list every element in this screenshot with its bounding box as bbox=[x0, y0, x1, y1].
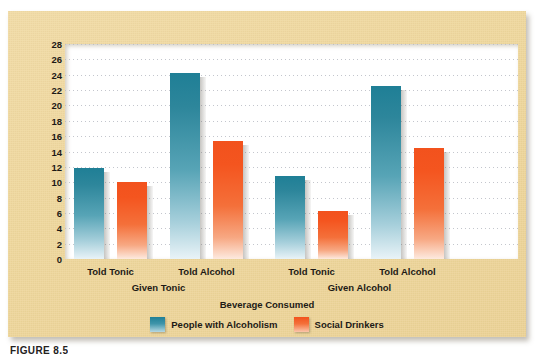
bar bbox=[371, 86, 401, 259]
bar-body bbox=[213, 141, 243, 259]
plot-area bbox=[65, 44, 518, 259]
y-axis-tick-label: 6 bbox=[36, 207, 62, 218]
y-axis-tick-label: 12 bbox=[36, 161, 62, 172]
bar-shadow bbox=[104, 172, 110, 259]
y-axis-tick-label: 18 bbox=[36, 115, 62, 126]
y-axis-tick-label: 26 bbox=[36, 54, 62, 65]
bar-shadow bbox=[200, 77, 206, 259]
bars-layer bbox=[65, 44, 518, 259]
legend-item: People with Alcoholism bbox=[150, 317, 277, 332]
bar-body bbox=[414, 148, 444, 259]
y-axis-tick-label: 24 bbox=[36, 69, 62, 80]
bar-body bbox=[371, 86, 401, 259]
y-axis-tick-label: 8 bbox=[36, 192, 62, 203]
y-axis-tick-label: 22 bbox=[36, 85, 62, 96]
figure-container: Fluid Ounces Consumed 024681012141618202… bbox=[0, 0, 539, 356]
bar bbox=[117, 182, 147, 259]
legend-swatch bbox=[150, 317, 165, 332]
bar-shadow bbox=[147, 186, 153, 259]
y-axis-tick-label: 0 bbox=[36, 254, 62, 265]
bar-shadow bbox=[444, 152, 450, 259]
bar-body bbox=[275, 176, 305, 259]
y-axis-tick-label: 28 bbox=[36, 39, 62, 50]
bar bbox=[74, 168, 104, 259]
legend-item: Social Drinkers bbox=[294, 317, 384, 332]
bar bbox=[275, 176, 305, 259]
bar bbox=[170, 73, 200, 259]
x-axis-category-label: Told Tonic bbox=[87, 266, 134, 277]
y-axis-tick-label: 16 bbox=[36, 131, 62, 142]
bar-shadow bbox=[401, 90, 407, 259]
bar bbox=[318, 211, 348, 259]
bar-shadow bbox=[348, 215, 354, 259]
y-axis-tick-label: 4 bbox=[36, 223, 62, 234]
bar-body bbox=[170, 73, 200, 259]
bar-shadow bbox=[305, 180, 311, 259]
figure-panel: Fluid Ounces Consumed 024681012141618202… bbox=[8, 11, 526, 337]
legend-swatch bbox=[294, 317, 309, 332]
bar-body bbox=[318, 211, 348, 259]
x-axis-title: Beverage Consumed bbox=[8, 299, 526, 310]
legend-label: Social Drinkers bbox=[315, 319, 384, 330]
bar bbox=[414, 148, 444, 259]
y-axis-tick-labels: 0246810121416182022242628 bbox=[34, 44, 62, 259]
x-axis-group-label: Given Alcohol bbox=[328, 282, 392, 293]
y-axis-tick-label: 14 bbox=[36, 146, 62, 157]
bar-shadow bbox=[243, 145, 249, 259]
figure-caption: FIGURE 8.5 bbox=[10, 345, 68, 356]
bar-body bbox=[74, 168, 104, 259]
y-axis-tick-label: 2 bbox=[36, 238, 62, 249]
y-axis-tick-label: 10 bbox=[36, 177, 62, 188]
bar-body bbox=[117, 182, 147, 259]
x-axis-category-label: Told Alcohol bbox=[178, 266, 234, 277]
x-axis-category-label: Told Alcohol bbox=[379, 266, 435, 277]
x-axis-group-label: Given Tonic bbox=[132, 282, 186, 293]
legend: People with AlcoholismSocial Drinkers bbox=[8, 317, 526, 332]
x-axis-category-label: Told Tonic bbox=[288, 266, 335, 277]
bar bbox=[213, 141, 243, 259]
legend-label: People with Alcoholism bbox=[171, 319, 277, 330]
y-axis-tick-label: 20 bbox=[36, 100, 62, 111]
